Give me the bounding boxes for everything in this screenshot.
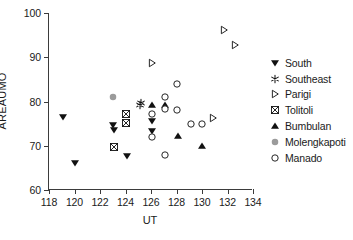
open-circle-icon [268, 153, 282, 163]
data-point [109, 125, 119, 135]
filled-triangle-up-icon [268, 121, 282, 131]
data-point [135, 100, 145, 110]
x-axis-tick-label: 122 [91, 196, 108, 208]
y-axis-tick-label: 90 [30, 51, 41, 63]
scatter-plot-figure: AREAUMO UT 60708090100118120122124126128… [0, 0, 353, 240]
data-point [172, 79, 182, 89]
x-axis-tick-label: 124 [117, 196, 134, 208]
x-axis-tick [253, 189, 254, 194]
legend-item-south[interactable]: South [268, 55, 353, 71]
x-axis-tick-label: 120 [66, 196, 83, 208]
legend-item-molengkapoti[interactable]: Molengkapoti [268, 134, 353, 150]
x-axis-tick-label: 128 [168, 196, 185, 208]
x-axis-tick-label: 118 [41, 196, 57, 208]
legend-item-label: South [285, 57, 312, 69]
y-axis-tick-label: 70 [30, 140, 41, 152]
legend-item-tolitoli[interactable]: Tolitoli [268, 102, 353, 118]
data-point [70, 158, 80, 168]
data-point [208, 113, 218, 123]
x-axis-tick [100, 189, 101, 194]
x-axis-tick [126, 189, 127, 194]
x-axis-tick-label: 130 [193, 196, 210, 208]
legend: SouthSoutheastParigiTolitoliBumbulanMole… [268, 55, 353, 166]
x-axis-tick-label: 134 [244, 196, 261, 208]
data-point [109, 142, 119, 152]
filled-circle-gray-icon [268, 137, 282, 147]
x-axis-tick [75, 189, 76, 194]
y-axis-tick-label: 100 [24, 7, 41, 19]
x-axis-tick [49, 189, 50, 194]
crossed-square-icon [268, 105, 282, 115]
data-point [172, 105, 182, 115]
data-point [186, 119, 196, 129]
legend-item-label: Manado [285, 152, 322, 164]
data-point [122, 151, 132, 161]
data-point [173, 131, 183, 141]
data-point [160, 104, 170, 114]
x-axis-title: UT [143, 214, 158, 226]
legend-item-southeast[interactable]: Southeast [268, 71, 353, 87]
data-point [121, 118, 131, 128]
data-point [147, 132, 157, 142]
legend-item-label: Molengkapoti [285, 136, 346, 148]
data-point [58, 112, 68, 122]
legend-item-parigi[interactable]: Parigi [268, 87, 353, 103]
y-axis-tick-label: 80 [30, 96, 41, 108]
data-point [197, 119, 207, 129]
legend-item-label: Bumbulan [285, 120, 331, 132]
y-axis-tick-label: 60 [30, 184, 41, 196]
data-points-layer [49, 13, 252, 189]
filled-triangle-down-icon [268, 58, 282, 68]
data-point [147, 109, 157, 119]
data-point [160, 150, 170, 160]
x-axis-tick [151, 189, 152, 194]
y-axis-title: AREAUMO [0, 72, 8, 129]
x-axis-tick [228, 189, 229, 194]
data-point [197, 141, 207, 151]
open-triangle-right-icon [268, 89, 282, 99]
legend-item-label: Southeast [285, 73, 331, 85]
legend-item-bumbulan[interactable]: Bumbulan [268, 118, 353, 134]
data-point [147, 58, 157, 68]
x-axis-tick [202, 189, 203, 194]
data-point [108, 92, 118, 102]
legend-item-manado[interactable]: Manado [268, 150, 353, 166]
data-point [219, 25, 229, 35]
data-point [160, 92, 170, 102]
x-axis-tick [177, 189, 178, 194]
data-point [230, 40, 240, 50]
legend-item-label: Tolitoli [285, 104, 313, 116]
plot-area: 60708090100118120122124126128130132134 [48, 13, 252, 190]
x-axis-tick-label: 132 [219, 196, 236, 208]
legend-item-label: Parigi [285, 88, 311, 100]
asterisk-icon [268, 74, 282, 84]
x-axis-tick-label: 126 [142, 196, 159, 208]
